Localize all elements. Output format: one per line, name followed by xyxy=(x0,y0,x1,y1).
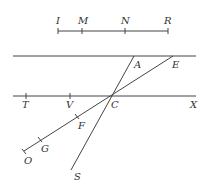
label-G: G xyxy=(41,143,49,154)
label-V: V xyxy=(66,99,75,110)
label-R: R xyxy=(163,15,172,26)
label-C: C xyxy=(111,99,119,110)
label-S: S xyxy=(74,171,81,182)
label-T: T xyxy=(22,99,30,110)
scale-segment xyxy=(58,28,168,34)
geometry-diagram: I M N R A E T V C X F G O S xyxy=(0,0,211,192)
line-AS xyxy=(71,56,134,170)
label-X: X xyxy=(189,99,198,110)
label-N: N xyxy=(120,15,131,26)
label-M: M xyxy=(77,15,89,26)
label-E: E xyxy=(171,59,180,70)
label-F: F xyxy=(77,120,86,131)
label-I: I xyxy=(55,15,61,26)
line-EO xyxy=(24,56,173,151)
label-A: A xyxy=(133,59,141,70)
label-O: O xyxy=(24,155,32,166)
